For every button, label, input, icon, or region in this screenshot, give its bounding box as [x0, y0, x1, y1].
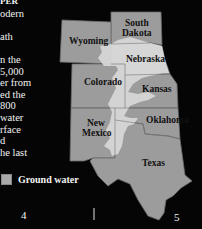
label-south-dakota: SouthDakota: [122, 18, 152, 38]
page-number-right: 5: [174, 211, 180, 223]
ground-water-swatch-icon: [1, 174, 12, 185]
page-number-left: 4: [21, 209, 27, 221]
page-gutter: [93, 208, 95, 220]
label-colorado: Colorado: [84, 77, 122, 87]
ogallala-aquifer-map: SouthDakota Wyoming Nebraska Colorado Ka…: [0, 0, 202, 229]
label-kansas: Kansas: [142, 84, 172, 94]
label-nebraska: Nebraska: [126, 54, 165, 64]
map-legend: Ground water: [1, 174, 79, 185]
label-wyoming: Wyoming: [69, 36, 108, 46]
label-texas: Texas: [142, 158, 165, 168]
label-oklahoma: Oklahoma: [146, 115, 189, 125]
legend-label: Ground water: [18, 174, 79, 185]
